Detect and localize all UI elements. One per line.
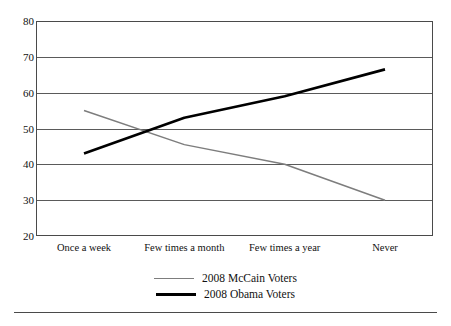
chart-figure: 80706050403020 Once a weekFew times a mo… bbox=[0, 0, 451, 326]
legend-label-obama: 2008 Obama Voters bbox=[204, 288, 295, 301]
legend-swatch-mccain-icon bbox=[154, 278, 194, 280]
x-tick-label-3: Never bbox=[372, 242, 398, 254]
legend-item-obama: 2008 Obama Voters bbox=[156, 288, 295, 301]
y-tick-label-70: 70 bbox=[14, 52, 34, 63]
x-tick-label-1: Few times a month bbox=[144, 242, 224, 254]
x-tick-label-0: Once a week bbox=[57, 242, 111, 254]
legend-item-mccain: 2008 McCain Voters bbox=[154, 272, 297, 285]
y-tick-label-40: 40 bbox=[14, 159, 34, 170]
x-tick-label-2: Few times a year bbox=[249, 242, 320, 254]
y-tick-label-30: 30 bbox=[14, 195, 34, 206]
footer-divider bbox=[14, 312, 437, 313]
y-tick-label-20: 20 bbox=[14, 231, 34, 242]
legend-swatch-obama-icon bbox=[156, 293, 196, 296]
y-tick-label-60: 60 bbox=[14, 88, 34, 99]
chart-legend: 2008 McCain Voters 2008 Obama Voters bbox=[0, 272, 451, 301]
y-tick-label-80: 80 bbox=[14, 16, 34, 27]
legend-label-mccain: 2008 McCain Voters bbox=[202, 272, 297, 285]
y-tick-label-50: 50 bbox=[14, 124, 34, 135]
